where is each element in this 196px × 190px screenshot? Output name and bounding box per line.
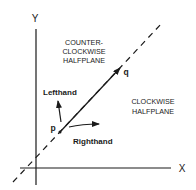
halfplane-diagram: Y X p q Lefthand Righthand COUNTER- CLOC… (0, 0, 196, 190)
point-p-dot (59, 131, 62, 134)
righthand-label: Righthand (73, 137, 113, 146)
ccw-line-3: HALFPLANE (63, 56, 105, 65)
x-axis-label: X (179, 163, 186, 174)
lefthand-label: Lefthand (43, 88, 77, 97)
cw-line-1: CLOCKWISE (131, 97, 174, 106)
lefthand-arrow (58, 101, 61, 122)
point-p-label: p (50, 123, 55, 133)
y-axis-label: Y (32, 13, 39, 24)
cw-line-2: HALFPLANE (132, 107, 174, 116)
righthand-arrow (69, 124, 99, 127)
vector-pq (60, 68, 120, 132)
clockwise-region-label: CLOCKWISE HALFPLANE (131, 97, 174, 116)
ccw-line-1: COUNTER- (65, 38, 104, 47)
ccw-line-2: CLOCKWISE (62, 47, 105, 56)
counter-clockwise-region-label: COUNTER- CLOCKWISE HALFPLANE (62, 38, 105, 65)
point-q-label: q (123, 67, 128, 77)
